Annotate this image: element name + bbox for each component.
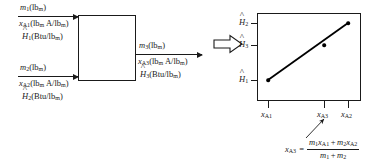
process-diagram-figure: m1(lbm) xA1(lbm A/lbm) H1(Btu/lbm) m2(lb… [0,0,382,165]
plot-datapoint-3 [322,43,326,47]
x-tick-mark-xa1 [268,101,269,108]
x-tick-mark-xa3 [324,101,325,108]
y-tick-label-h3: H3 [239,40,248,49]
equation-fraction: m1xA1+m2xA2 m1+m2 [307,138,359,160]
inlet1-mass-flow-label: m1(lbm) [20,3,46,12]
equation-lhs: xA3 [285,145,296,154]
inlet2-mass-flow-label: m2(lbm) [20,63,46,72]
outlet3-composition-label: xA3(lbm A/lbm) [138,57,188,66]
inlet1-stream-arrow [18,16,78,17]
y-tick-label-h2: H2 [239,18,248,27]
plot-datapoint-1 [266,78,270,82]
plot-series-line [257,13,361,101]
outlet3-enthalpy-label: H3(Btu/lbm) [140,70,181,79]
inlet2-stream-arrow [18,76,78,77]
equation-equals-sign: = [299,145,304,154]
plot-datapoint-2 [346,21,350,25]
process-unit-box [78,15,136,81]
outlet3-mass-flow-label: m3(lbm) [139,41,165,50]
inlet2-enthalpy-label: H2(Btu/lbm) [22,92,63,101]
x-tick-label-xa1: xA1 [261,110,272,119]
inlet1-enthalpy-label: H1(Btu/lbm) [22,32,63,41]
outlet3-stream-arrow [136,54,202,55]
equation-denominator: m1+m2 [318,150,348,161]
x-tick-label-xa2: xA2 [341,110,352,119]
mixing-rule-equation: xA3 = m1xA1+m2xA2 m1+m2 [285,138,359,160]
equation-numerator: m1xA1+m2xA2 [307,138,359,149]
y-tick-label-h1: H1 [239,75,248,84]
x-tick-mark-xa2 [348,101,349,108]
